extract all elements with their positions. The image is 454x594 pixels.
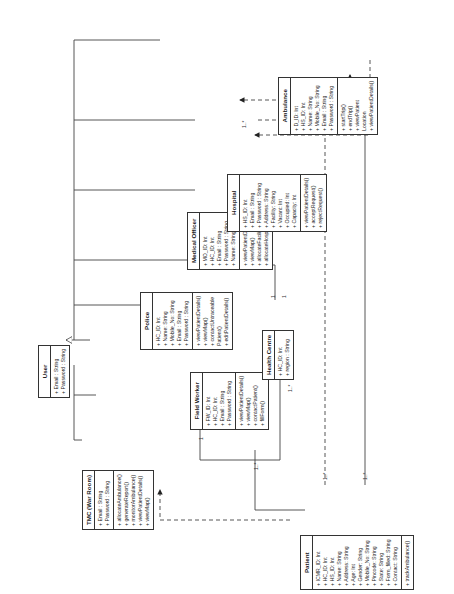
class-ambulance: Ambulance + D_ID: Int + HS_ID: Int + Nam… xyxy=(278,77,378,135)
method: + viewPatientDetails() xyxy=(303,178,310,228)
attribute: + Password : String xyxy=(60,349,67,394)
method: + trackAmbulance() xyxy=(404,539,411,586)
method: + endTrip() xyxy=(347,81,354,131)
attribute: + Contact: String xyxy=(392,539,399,586)
attribute: + Pincode: String xyxy=(371,539,378,586)
method: + contactUntraceable xyxy=(209,296,216,346)
class-user: User + Email : String + Password : Strin… xyxy=(38,345,70,398)
multiplicity-label: 1 xyxy=(281,295,287,298)
method: + editPatientDetails() xyxy=(223,296,230,346)
class-title: Hospital xyxy=(228,175,240,231)
class-title: Patient xyxy=(301,536,313,589)
attribute: + Form_filled: String xyxy=(385,539,392,586)
attribute: + Occupied: Int xyxy=(284,178,291,228)
class-title: User xyxy=(39,346,51,397)
attribute: + Email : String xyxy=(321,81,328,131)
attribute: + HC_ID: Int xyxy=(212,376,219,426)
attribute: + Facility: String xyxy=(270,178,277,228)
multiplicity-label: 1 xyxy=(270,295,276,298)
attribute: + Name: String xyxy=(336,539,343,586)
class-title: Police xyxy=(141,293,153,349)
method: Location xyxy=(361,81,368,131)
attribute: + Name: String xyxy=(162,296,169,346)
attribute: + Vacant: Int xyxy=(277,178,284,228)
attribute: + Name: String xyxy=(307,81,314,131)
attribute: + Email : String xyxy=(249,178,256,228)
attribute: + Address: String xyxy=(263,178,270,228)
attribute: + Password : String xyxy=(104,474,111,526)
attribute: + D_ID: Int xyxy=(293,81,300,131)
attribute: + HC_ID: Int xyxy=(277,334,284,376)
class-tmc: TMC (War Room) + Email : String + Passwo… xyxy=(82,470,154,530)
attribute: + Password : String xyxy=(226,376,233,426)
attribute: + ICMR_ID: Int xyxy=(315,539,322,586)
class-field-worker: Field Worker + FW_ID: Int + HC_ID: Int +… xyxy=(190,372,269,430)
methods-section: + viewPatientDetails() + viewMap() + con… xyxy=(236,373,268,429)
attribute: + HC_ID: Int xyxy=(209,216,216,266)
method: + allocateAmbulance() xyxy=(116,474,123,526)
attribute: + Capacity: Int xyxy=(291,178,298,228)
methods-section: + viewPatientDetails() + acceptRequest()… xyxy=(301,175,326,231)
attribute: + Age: Int xyxy=(350,539,357,586)
class-title: Ambulance xyxy=(279,78,291,134)
attribute: + Email : String xyxy=(97,474,104,526)
attribute: + Mobile_No: String xyxy=(364,539,371,586)
multiplicity-label: 1..* xyxy=(253,462,259,470)
class-title: Field Worker xyxy=(191,373,203,429)
attribute: + Address: String xyxy=(343,539,350,586)
attribute: + Password : String xyxy=(256,178,263,228)
attribute: + Email : String xyxy=(219,376,226,426)
multiplicity-label: 1 xyxy=(198,437,204,440)
method: + acceptRequest() xyxy=(310,178,317,228)
attribute: + HS_ID: Int xyxy=(300,81,307,131)
method: + fillForm() xyxy=(259,376,266,426)
attribute: + region : String xyxy=(284,334,291,376)
method: + viewPatientDetails() xyxy=(137,474,144,526)
method: + viewPatient xyxy=(354,81,361,131)
methods-section: + startTrip() + endTrip() + viewPatient … xyxy=(338,78,377,134)
attributes-section: + D_ID: Int + HS_ID: Int + Name: String … xyxy=(291,78,338,134)
methods-section: + viewPatientDetails() + viewMap() + con… xyxy=(193,293,232,349)
attribute: + Gender: String xyxy=(357,539,364,586)
method: + viewMap() xyxy=(202,296,209,346)
attributes-section: + ICMR_ID: Int + HC_ID: Int + HS_ID: Int… xyxy=(313,536,402,589)
attributes-section: + Email : String + Password : String xyxy=(95,471,114,529)
attribute: + HS_ID: Int xyxy=(242,178,249,228)
class-police: Police + HC_ID: Int + Name: String + Mob… xyxy=(140,292,233,350)
attribute: + State: String xyxy=(378,539,385,586)
class-hospital: Hospital + HS_ID: Int + Email : String +… xyxy=(227,174,327,232)
method: + startTrip() xyxy=(340,81,347,131)
attribute: + Email : String xyxy=(216,216,223,266)
attributes-section: + FW_ID: Int + HC_ID: Int + Email : Stri… xyxy=(203,373,236,429)
attribute: + HC_ID: Int xyxy=(155,296,162,346)
class-patient: Patient + ICMR_ID: Int + HC_ID: Int + HS… xyxy=(300,535,414,590)
class-health-centre: Health Centre + HC_ID: Int + region : St… xyxy=(262,330,294,380)
class-title: Health Centre xyxy=(263,331,275,379)
attribute: + HS_ID: Int xyxy=(329,539,336,586)
multiplicity-label: 1..* xyxy=(362,472,368,480)
method: + monitorAmbulance() xyxy=(130,474,137,526)
class-title: Medical Officer xyxy=(188,213,200,269)
attribute: + Password : String xyxy=(183,296,190,346)
attribute: + HC_ID: Int xyxy=(322,539,329,586)
attribute: + Mobile_No: String xyxy=(314,81,321,131)
method: + rejectRequest() xyxy=(317,178,324,228)
attribute: + Mobile_No: String xyxy=(169,296,176,346)
method: + viewMap() xyxy=(144,474,151,526)
attribute: + Password : String xyxy=(328,81,335,131)
method: + viewPatientDetails() xyxy=(238,376,245,426)
method: + viewMap() xyxy=(245,376,252,426)
multiplicity-label: 1..* xyxy=(287,384,293,392)
method: + generateReport() xyxy=(123,474,130,526)
methods-section: + allocateAmbulance() + generateReport()… xyxy=(114,471,153,529)
attribute: + Email : String xyxy=(176,296,183,346)
methods-section: + trackAmbulance() xyxy=(402,536,413,589)
attributes-section: + HC_ID: Int + region : String xyxy=(275,331,293,379)
class-title: TMC (War Room) xyxy=(83,471,95,529)
attributes-section: + HC_ID: Int + Name: String + Mobile_No:… xyxy=(153,293,193,349)
method: + viewPatientDetails() xyxy=(195,296,202,346)
attribute: + FW_ID: Int xyxy=(205,376,212,426)
multiplicity-label: 1..* xyxy=(322,472,328,480)
method: + contactPatient() xyxy=(252,376,259,426)
method: Patient() xyxy=(216,296,223,346)
